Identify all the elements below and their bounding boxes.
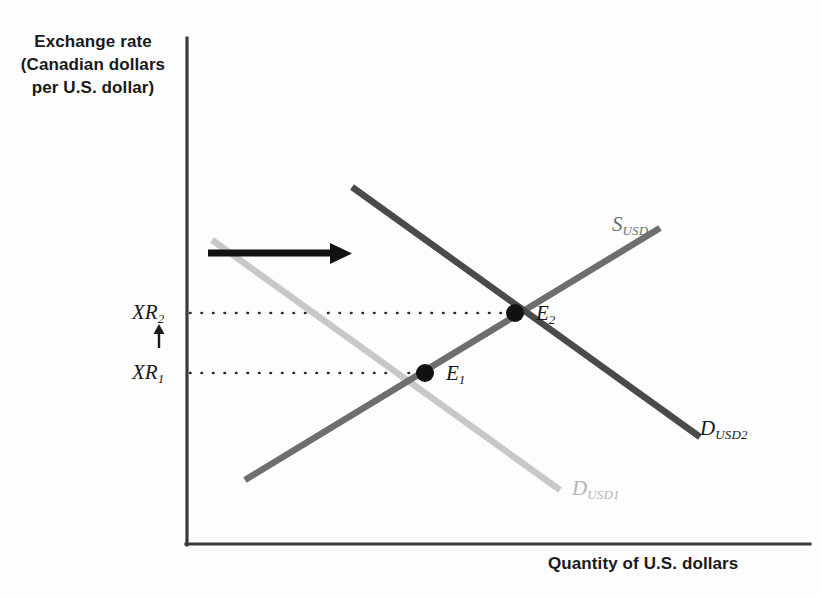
equilibrium-label-e2-sub: 2 [549,312,556,327]
curve-label-demand-usd2-base: D [700,416,715,440]
equilibrium-label-e1-sub: 1 [459,372,466,387]
y-axis-title-line-3: per U.S. dollar) [8,76,178,99]
curve-label-demand-usd1-sub: USD1 [587,487,620,502]
price-increase-arrow [154,324,165,348]
equilibrium-point-2 [506,304,524,322]
curve-label-demand-usd1-base: D [572,476,587,500]
curve-label-demand-usd2: DUSD2 [700,416,748,441]
demand-shift-arrow [208,243,352,264]
price-label-xr2-base: XR [132,300,158,324]
price-label-xr2-sub: 2 [158,311,165,326]
curve-label-supply-usd-sub: USD [623,223,649,238]
equilibrium-label-e2: E2 [536,301,556,326]
curve-label-demand-usd2-sub: USD2 [715,427,748,442]
y-axis-title: Exchange rate (Canadian dollars per U.S.… [8,30,178,99]
price-label-xr1-sub: 1 [158,371,165,386]
equilibrium-label-e1: E1 [446,361,466,386]
curve-label-supply-usd-base: S [612,212,623,236]
price-label-xr1-base: XR [132,360,158,384]
curve-label-demand-usd1: DUSD1 [572,476,620,501]
y-axis-title-line-2: (Canadian dollars [8,53,178,76]
curve-label-supply-usd: SUSD [612,212,648,237]
x-axis-title: Quantity of U.S. dollars [548,552,738,575]
supply-usd-curve [245,228,660,480]
price-label-xr1: XR1 [132,360,164,385]
equilibrium-label-e1-base: E [446,361,459,385]
equilibrium-point-1 [416,364,434,382]
exchange-rate-supply-demand-figure: Exchange rate (Canadian dollars per U.S.… [0,0,822,598]
equilibrium-label-e2-base: E [536,301,549,325]
demand-usd1-curve [212,240,560,490]
price-label-xr2: XR2 [132,300,164,325]
y-axis-title-line-1: Exchange rate [8,30,178,53]
